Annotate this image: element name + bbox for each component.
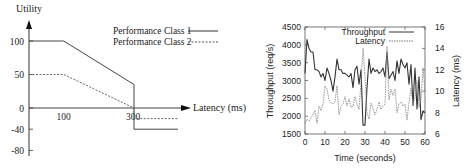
latency-axis-label: Latency (ms) (193, 102, 246, 114)
legend-label-class-1: Performance Class 1 (113, 26, 192, 36)
utility-series (29, 41, 178, 129)
x-axis-arrow-icon (181, 105, 191, 111)
y-tick-label: -80 (11, 146, 24, 156)
x-tick-label: 20 (340, 137, 350, 147)
throughput-latency-chart: 1500200025003000350040004500 6810121416 … (265, 22, 461, 163)
throughput-legend: Throughput Latency (342, 27, 414, 46)
y2-tick-label: 6 (435, 129, 440, 139)
y-tick-label: 4000 (282, 40, 301, 50)
latency-x-ticks: 100300 (57, 112, 141, 122)
utility-legend: Performance Class 1 Performance Class 2 (113, 26, 218, 47)
y-tick-label: 4500 (282, 22, 301, 32)
utility-axis-label: Utility (16, 3, 42, 14)
y2-tick-label: 14 (435, 43, 445, 53)
time-axis-label: Time (seconds) (334, 153, 396, 163)
throughput-y-ticks: 1500200025003000350040004500 (282, 22, 308, 139)
latency-axis-label-right: Latency (ms) (451, 55, 461, 107)
x-tick-label: 60 (420, 137, 430, 147)
series-line (29, 75, 178, 119)
y-axis-arrow-icon (26, 20, 32, 29)
utility-chart: Utility Latency (ms) 100500-40-80 100300… (10, 3, 246, 156)
y-tick-label: 50 (15, 70, 25, 80)
x-tick-label: 300 (126, 112, 141, 122)
series-line (29, 41, 178, 129)
x-tick-label: 10 (320, 137, 330, 147)
y-tick-label: 100 (10, 37, 25, 47)
x-tick-label: 30 (360, 137, 370, 147)
x-tick-label: 100 (57, 112, 72, 122)
y-tick-label: 2000 (282, 111, 301, 121)
y-tick-label: 3000 (282, 76, 301, 86)
legend-label-class-2: Performance Class 2 (113, 37, 192, 47)
y2-tick-label: 16 (435, 22, 445, 32)
y-tick-label: 0 (19, 104, 24, 114)
utility-y-ticks: 100500-40-80 (10, 37, 33, 156)
x-tick-label: 0 (303, 137, 308, 147)
y2-tick-label: 10 (435, 86, 445, 96)
y2-tick-label: 12 (435, 65, 445, 75)
series-line-latency (305, 46, 425, 123)
y-tick-label: 2500 (282, 93, 301, 103)
x-tick-label: 40 (380, 137, 390, 147)
y-tick-label: -40 (11, 125, 24, 135)
y-tick-label: 3500 (282, 58, 301, 68)
y2-tick-label: 8 (435, 108, 440, 118)
latency-y2-ticks: 6810121416 (422, 22, 445, 139)
x-tick-label: 50 (400, 137, 410, 147)
throughput-latency-series (305, 40, 425, 126)
throughput-axis-label: Throughput (req/s) (265, 44, 275, 119)
legend-label-latency: Latency (355, 36, 386, 46)
y-tick-label: 1500 (282, 129, 301, 139)
figure-canvas: Utility Latency (ms) 100500-40-80 100300… (0, 0, 466, 168)
